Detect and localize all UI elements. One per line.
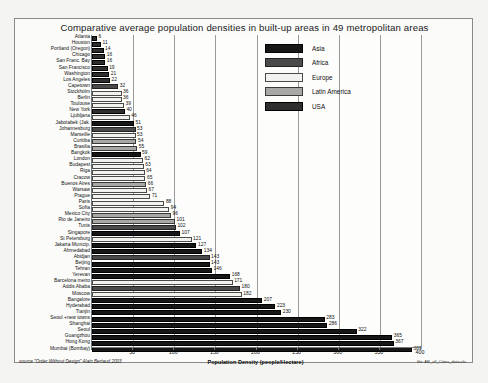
legend-label: USA <box>312 103 325 110</box>
bar-usa <box>92 72 109 77</box>
bar-africa <box>92 127 136 132</box>
bar-asia <box>92 268 212 273</box>
chart-frame: Comparative average population densities… <box>14 18 473 363</box>
bar-asia <box>92 310 281 315</box>
legend-swatch-europe <box>265 73 303 82</box>
legend-item-europe: Europe <box>265 70 383 85</box>
file-note: file: AB_all_Cities_data.xls <box>417 359 466 364</box>
bar-usa <box>92 60 105 65</box>
bar-usa <box>92 48 104 53</box>
bar-usa <box>92 42 101 47</box>
bar-asia <box>92 274 230 279</box>
bar-usa <box>92 78 110 83</box>
legend-swatch-africa <box>265 58 303 67</box>
chart-title: Comparative average population densities… <box>15 22 474 33</box>
legend: AsiaAfricaEuropeLatin AmericaUSA <box>265 41 383 114</box>
bar-latin <box>92 139 136 144</box>
bar-latin <box>92 146 137 151</box>
bar-asia <box>92 323 327 328</box>
bar-value-label: 182 <box>243 291 251 297</box>
bar-europe <box>92 115 130 120</box>
bar-asia <box>92 298 262 303</box>
tick-label-300: 300 <box>333 349 342 355</box>
bar-latin <box>92 219 175 224</box>
bar-asia <box>92 329 357 334</box>
tick-label-200: 200 <box>251 349 260 355</box>
bar-europe <box>92 194 150 199</box>
bar-value-label: 146 <box>214 266 222 272</box>
bar-europe <box>92 170 145 175</box>
bar-value-label: 322 <box>358 327 366 333</box>
legend-swatch-usa <box>265 102 303 111</box>
bar-value-label: 71 <box>152 193 157 199</box>
bar-asia <box>92 335 392 340</box>
bar-usa <box>92 36 97 41</box>
legend-item-asia: Asia <box>265 41 383 56</box>
bar-asia <box>92 262 210 267</box>
bar-asia <box>92 317 325 322</box>
bar-europe <box>92 207 169 212</box>
bar-latin <box>92 213 171 218</box>
tick-label-150: 150 <box>210 349 219 355</box>
category-label: Mumbai (Bombay) <box>50 346 90 352</box>
bar-europe <box>92 97 122 102</box>
bar-value-label: 207 <box>264 297 272 303</box>
bar-europe <box>92 91 122 96</box>
legend-label: Africa <box>312 59 328 66</box>
bar-usa <box>92 109 125 114</box>
bar-value-label: 367 <box>395 339 403 345</box>
bar-usa <box>92 66 108 71</box>
legend-label: Asia <box>312 45 324 52</box>
bar-europe <box>92 237 192 242</box>
bar-europe <box>92 292 242 297</box>
bar-europe <box>92 103 124 108</box>
bar-value-label: 286 <box>329 321 337 327</box>
bar-asia <box>92 243 196 248</box>
tick-label-100: 100 <box>169 349 178 355</box>
tick-label-50: 50 <box>129 349 135 355</box>
bar-europe <box>92 164 144 169</box>
bar-asia <box>92 231 180 236</box>
bar-africa <box>92 84 118 89</box>
legend-item-usa: USA <box>265 99 383 114</box>
legend-item-africa: Africa <box>265 56 383 71</box>
x-axis-label: Population Density (people/Hectare) <box>91 359 420 365</box>
bar-europe <box>92 133 136 138</box>
tick-mark-0 <box>91 347 92 350</box>
bar-value-label: 22 <box>112 77 117 83</box>
bar-value-label: 6 <box>98 34 101 40</box>
legend-swatch-asia <box>265 44 303 53</box>
bar-asia <box>92 341 394 346</box>
bar-europe <box>92 201 164 206</box>
bar-usa <box>92 54 105 59</box>
bar-value-label: 230 <box>283 309 291 315</box>
bar-africa <box>92 225 176 230</box>
tick-label-250: 250 <box>292 349 301 355</box>
bar-africa <box>92 255 210 260</box>
bar-latin <box>92 182 146 187</box>
bar-europe <box>92 158 143 163</box>
bar-asia <box>92 304 275 309</box>
bar-europe <box>92 188 147 193</box>
tick-label-350: 350 <box>374 349 383 355</box>
bar-europe <box>92 280 233 285</box>
bar-asia <box>92 152 141 157</box>
bar-africa <box>92 286 240 291</box>
source-note: source "Order Without Design" Alain Bert… <box>19 359 122 364</box>
legend-label: Latin America <box>312 88 351 95</box>
bar-asia <box>92 249 202 254</box>
legend-swatch-latin <box>265 87 303 96</box>
bar-value-label: 107 <box>182 230 190 236</box>
bar-europe <box>92 176 145 181</box>
chart-screenshot: Comparative average population densities… <box>0 0 488 383</box>
legend-item-latin: Latin America <box>265 85 383 100</box>
legend-label: Europe <box>312 74 333 81</box>
bar-asia <box>92 121 134 126</box>
tick-label-400: 400 <box>416 349 425 355</box>
